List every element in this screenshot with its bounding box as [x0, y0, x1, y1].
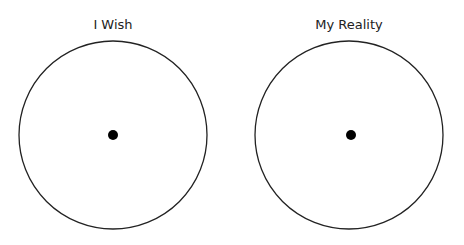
circles-canvas — [0, 0, 464, 245]
center-dot-i-wish — [108, 130, 118, 140]
center-dot-my-reality — [346, 130, 356, 140]
